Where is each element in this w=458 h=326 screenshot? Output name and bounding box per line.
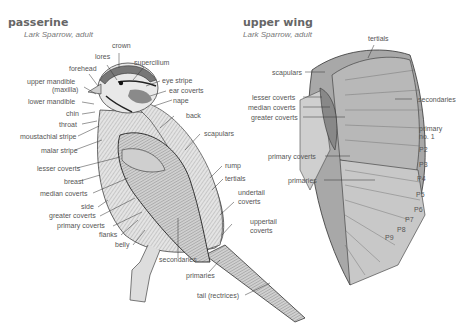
upper-wing-subtitle: Lark Sparrow, adult: [243, 30, 312, 39]
label-uppertail-coverts-1: uppertail: [250, 218, 277, 226]
wing-label-primary-coverts: primary coverts: [268, 153, 316, 161]
label-back: back: [186, 112, 201, 120]
label-throat: throat: [59, 121, 77, 129]
wing-label-p6: P6: [414, 206, 423, 214]
label-forehead: forehead: [69, 65, 97, 73]
label-lesser-coverts: lesser coverts: [37, 165, 80, 173]
wing-label-median-coverts: median coverts: [248, 104, 295, 112]
label-lores: lores: [95, 53, 110, 61]
label-flanks: flanks: [99, 231, 117, 239]
label-tail-rectrices: tail (rectrices): [197, 292, 239, 300]
label-malar-stripe: malar stripe: [41, 147, 78, 155]
label-greater-coverts: greater coverts: [49, 212, 96, 220]
wing-label-tertials: tertials: [368, 35, 389, 43]
label-belly: belly: [115, 241, 129, 249]
wing-label-p7: P7: [405, 216, 414, 224]
wing-label-scapulars: scapulars: [272, 69, 302, 77]
label-maxilla: (maxilla): [52, 86, 78, 94]
label-side: side: [81, 203, 94, 211]
label-secondaries: secondaries: [159, 256, 197, 264]
wing-label-secondaries: secondaries: [418, 96, 456, 104]
label-eye-stripe: eye stripe: [162, 77, 192, 85]
label-undertail-coverts-2: coverts: [238, 198, 261, 206]
upper-wing-title: upper wing: [243, 16, 313, 29]
label-breast: breast: [64, 178, 83, 186]
wing-label-p2: P2: [419, 146, 428, 154]
label-undertail-coverts-1: undertail: [238, 189, 265, 197]
wing-label-p8: P8: [397, 226, 406, 234]
label-uppertail-coverts-2: coverts: [250, 227, 273, 235]
wing-label-primary-no1-b: no. 1: [419, 133, 435, 141]
passerine-title: passerine: [8, 16, 68, 29]
label-supercilium: supercilium: [134, 59, 169, 67]
wing-label-p3: P3: [419, 161, 428, 169]
label-nape: nape: [173, 97, 189, 105]
wing-label-greater-coverts: greater coverts: [251, 114, 298, 122]
label-primary-coverts: primary coverts: [57, 222, 105, 230]
upper-wing-drawing: [300, 50, 425, 285]
wing-label-primary-no1-a: primary: [419, 125, 442, 133]
label-scapulars: scapulars: [204, 130, 234, 138]
label-lower-mandible: lower mandible: [28, 98, 75, 106]
wing-label-p4: P4: [417, 175, 426, 183]
label-chin: chin: [66, 110, 79, 118]
label-median-coverts: median coverts: [40, 190, 87, 198]
label-crown: crown: [112, 42, 131, 50]
label-primaries: primaries: [186, 272, 215, 280]
wing-label-p9: P9: [385, 234, 394, 242]
label-rump: rump: [225, 162, 241, 170]
wing-label-p5: P5: [416, 191, 425, 199]
label-ear-coverts: ear coverts: [169, 87, 204, 95]
wing-label-lesser-coverts: lesser coverts: [252, 94, 295, 102]
passerine-subtitle: Lark Sparrow, adult: [24, 30, 93, 39]
label-moustachial-stripe: moustachial stripe: [20, 133, 76, 141]
wing-label-primaries: primaries: [288, 177, 317, 185]
label-upper-mandible: upper mandible: [27, 78, 75, 86]
label-tertials: tertials: [225, 175, 246, 183]
